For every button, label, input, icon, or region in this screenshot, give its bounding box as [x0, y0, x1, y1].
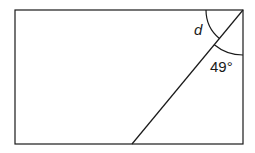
rectangle: [15, 10, 243, 144]
angle-arc-d: [206, 10, 219, 39]
angle-label-49: 49°: [210, 58, 233, 75]
angle-label-d: d: [194, 21, 203, 38]
diagonal-line: [132, 10, 243, 144]
angle-arc-49: [214, 45, 243, 55]
geometry-diagram: d 49°: [0, 0, 255, 153]
